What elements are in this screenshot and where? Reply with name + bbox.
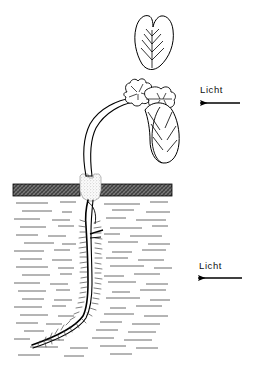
light-label-top: Licht (200, 84, 223, 95)
light-label-bottom: Licht (199, 260, 222, 271)
cork-plug (80, 174, 101, 201)
plant-phototropism-diagram (0, 0, 253, 369)
